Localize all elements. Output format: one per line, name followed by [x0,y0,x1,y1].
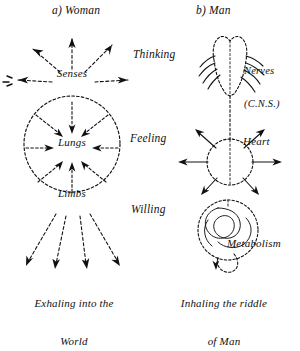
man-caption-line1: Inhaling the riddle [148,297,300,310]
woman-label-senses: Senses [57,68,88,80]
woman-label-limbs: Limbs [58,188,86,200]
man-caption-line2: of Man [148,335,300,348]
man-label-nerves-line1: Nerves [244,65,280,76]
woman-caption-line2: World [0,335,149,348]
panel-title-woman: a) Woman [52,4,100,16]
man-label-nerves-line2: (C.N.S.) [244,98,280,109]
man-label-metabolism: Metabolism [227,238,281,250]
man-label-nerves: Nerves (C.N.S.) [244,43,280,131]
man-label-heart: Heart [243,136,270,148]
man-caption: Inhaling the riddle of Man [148,272,300,351]
woman-label-lungs: Lungs [58,137,86,149]
panel-title-man: b) Man [196,4,231,16]
woman-figure-drawing [0,22,152,284]
woman-caption-line1: Exhaling into the [0,297,149,310]
woman-caption: Exhaling into the World [0,272,149,351]
